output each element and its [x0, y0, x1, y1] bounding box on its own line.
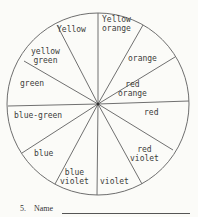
segment-green: green — [20, 79, 44, 88]
color-wheel — [0, 0, 198, 217]
segment-yellow-green: yellowgreen — [31, 47, 60, 65]
segment-red-orange: redorange — [118, 80, 147, 98]
segment-label: Yellow — [57, 25, 86, 34]
wheel-center — [97, 103, 100, 106]
segment-blue: blue — [34, 149, 53, 158]
segment-label: violet — [60, 177, 89, 186]
segment-violet: violet — [100, 177, 129, 186]
segment-yellow: Yellow — [57, 25, 86, 34]
name-field-row: 5. Name — [20, 204, 53, 213]
segment-label: violet — [130, 154, 159, 163]
segment-blue-violet: blueviolet — [60, 168, 89, 186]
segment-yellow-orange: Yelloworange — [102, 15, 131, 33]
segment-label: violet — [100, 177, 129, 186]
segment-orange: orange — [128, 54, 157, 63]
segment-label: blue-green — [14, 111, 62, 120]
segment-label: green — [33, 56, 57, 65]
segment-label: red — [137, 145, 151, 154]
segment-label: orange — [118, 89, 147, 98]
segment-label: green — [20, 79, 44, 88]
segment-blue-green: blue-green — [14, 111, 62, 120]
segment-red: red — [144, 108, 158, 117]
segment-label: red — [144, 108, 158, 117]
segment-label: Yellow — [102, 15, 131, 24]
name-label: Name — [34, 204, 53, 213]
segment-label: blue — [34, 149, 53, 158]
segment-red-violet: redviolet — [130, 145, 159, 163]
segment-label: orange — [102, 24, 131, 33]
question-number: 5. — [20, 204, 26, 213]
segment-label: red — [125, 80, 139, 89]
segment-label: orange — [128, 54, 157, 63]
name-input-line[interactable] — [62, 213, 190, 214]
segment-label: yellow — [31, 47, 60, 56]
segment-label: blue — [65, 168, 84, 177]
